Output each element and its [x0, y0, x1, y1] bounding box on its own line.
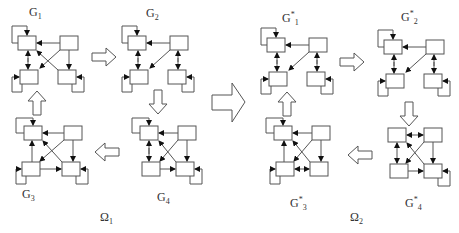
graph-gstar4	[388, 128, 450, 186]
arrow-g-star3-to-g-star1	[278, 92, 296, 116]
arrow-g3-to-g1	[28, 91, 46, 115]
arrow-g1-to-g2	[92, 48, 116, 66]
arrow-g-star1-to-g-star2	[340, 53, 364, 71]
graph-g1	[12, 26, 84, 92]
arrow-g2-to-g4	[149, 90, 167, 114]
graph-gstar1	[261, 28, 333, 94]
graph-g3	[16, 118, 88, 184]
label-g3: G3	[22, 187, 35, 203]
label-g2: G2	[146, 6, 159, 22]
arrow-omega1-to-omega2	[212, 83, 245, 122]
diagram-canvas	[0, 0, 459, 233]
label-gstar3: G*3	[290, 195, 307, 212]
arrow-g-star4-to-g-star3	[348, 146, 372, 164]
label-omega2: Ω2	[350, 210, 363, 226]
label-omega1: Ω1	[100, 210, 113, 226]
graph-gstar2	[378, 30, 450, 96]
label-gstar2: G*2	[401, 9, 418, 26]
graph-g2	[122, 26, 194, 92]
arrow-g-star2-to-g-star4	[400, 102, 418, 126]
graph-gstar3	[266, 118, 330, 184]
label-gstar4: G*4	[405, 195, 422, 212]
arrow-g4-to-g3	[95, 143, 119, 161]
graph-g4	[132, 118, 202, 184]
label-g4: G4	[157, 190, 170, 206]
label-g1: G1	[29, 5, 42, 21]
label-gstar1: G*1	[282, 10, 299, 27]
